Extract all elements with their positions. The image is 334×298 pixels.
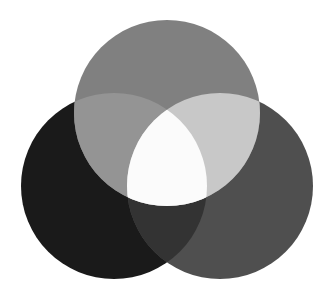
venn-canvas xyxy=(0,0,334,298)
venn-diagram-figure xyxy=(0,0,334,298)
